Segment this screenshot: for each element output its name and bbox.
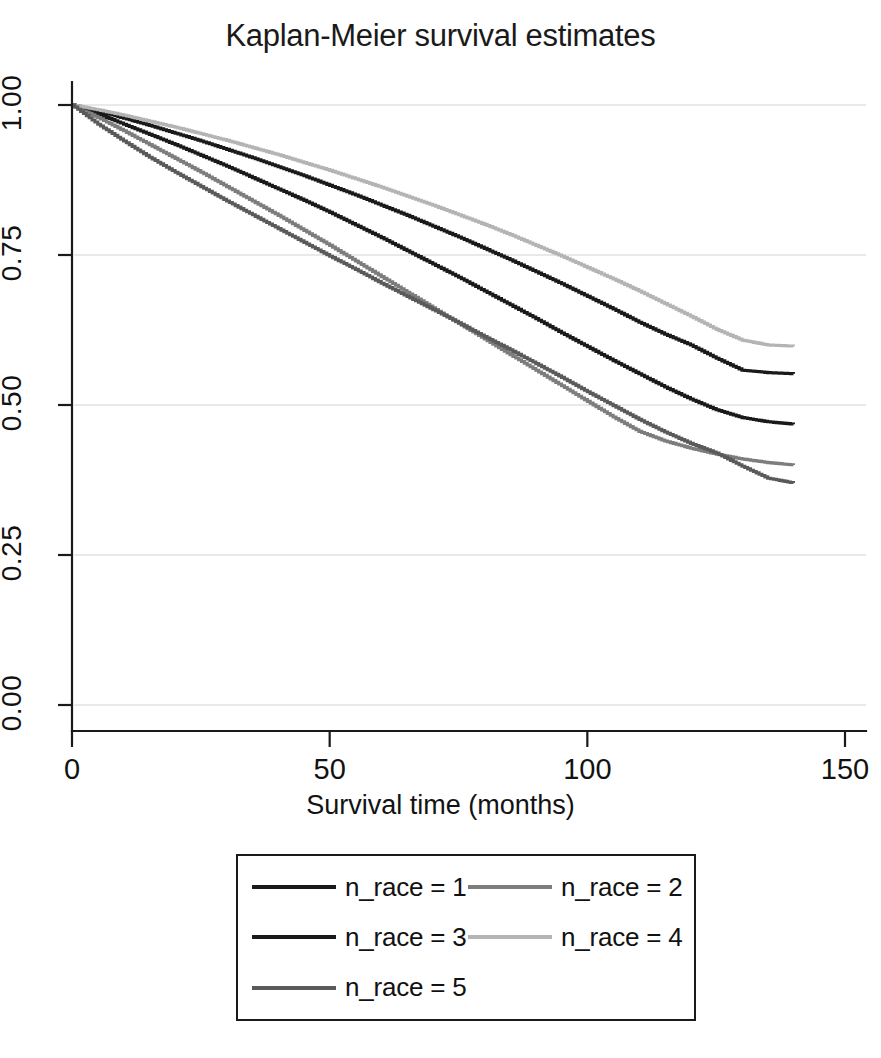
legend-entry-2[interactable]: n_race = 2 xyxy=(468,872,684,903)
legend-entry-3[interactable]: n_race = 3 xyxy=(252,922,468,953)
legend-line-swatch-3 xyxy=(252,935,336,939)
gridline-group xyxy=(74,105,866,705)
curve-group xyxy=(72,105,793,483)
y-tick-label-0: 0.00 xyxy=(0,657,28,749)
plot-canvas xyxy=(0,0,881,760)
y-tick-label-1: 0.25 xyxy=(0,507,28,599)
legend-label-1: n_race = 1 xyxy=(345,872,467,903)
legend-entry-5[interactable]: n_race = 5 xyxy=(252,972,468,1003)
legend-line-swatch-2 xyxy=(468,885,552,889)
legend-line-swatch-5 xyxy=(252,986,336,990)
x-tick-label-3: 150 xyxy=(785,753,881,786)
legend-line-swatch-1 xyxy=(252,885,336,889)
x-axis-title: Survival time (months) xyxy=(0,790,881,821)
survival-curve-2 xyxy=(72,105,793,465)
legend-label-5: n_race = 5 xyxy=(345,972,467,1003)
tick-group xyxy=(58,105,845,747)
survival-curve-1 xyxy=(72,105,793,424)
legend-grid: n_race = 1n_race = 2n_race = 3n_race = 4… xyxy=(238,856,694,1019)
y-tick-label-2: 0.50 xyxy=(0,357,28,449)
legend-label-4: n_race = 4 xyxy=(561,922,683,953)
kaplan-meier-figure: Kaplan-Meier survival estimates 0.000.25… xyxy=(0,0,881,1058)
x-tick-label-2: 100 xyxy=(527,753,647,786)
x-tick-label-0: 0 xyxy=(12,753,132,786)
legend-label-2: n_race = 2 xyxy=(561,872,683,903)
legend-entry-1[interactable]: n_race = 1 xyxy=(252,872,468,903)
legend-line-swatch-4 xyxy=(468,935,552,939)
legend-label-3: n_race = 3 xyxy=(345,922,467,953)
legend-box: n_race = 1n_race = 2n_race = 3n_race = 4… xyxy=(236,854,696,1021)
y-tick-label-3: 0.75 xyxy=(0,207,28,299)
y-tick-label-4: 1.00 xyxy=(0,57,28,149)
legend-entry-4[interactable]: n_race = 4 xyxy=(468,922,684,953)
x-tick-label-1: 50 xyxy=(270,753,390,786)
